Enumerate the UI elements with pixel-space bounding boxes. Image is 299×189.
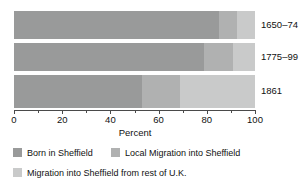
- bar-segment-rest-of-uk-migration: [233, 43, 255, 71]
- x-axis-tick-label: 80: [202, 114, 213, 125]
- x-axis-tick-label: 100: [247, 114, 263, 125]
- x-axis-minor-tick: [38, 110, 39, 113]
- legend-row: Migration into Sheffield from rest of U.…: [13, 165, 299, 180]
- legend: Born in Sheffield Local Migration into S…: [13, 145, 299, 185]
- legend-swatch-icon: [13, 168, 22, 177]
- bar-row: [14, 11, 255, 39]
- legend-item-local-migration: Local Migration into Sheffield: [111, 148, 240, 158]
- bar-segment-rest-of-uk-migration: [237, 11, 255, 39]
- legend-label: Migration into Sheffield from rest of U.…: [27, 168, 186, 178]
- x-axis-minor-tick: [231, 110, 232, 113]
- bar-row: [14, 75, 255, 108]
- x-axis-minor-tick: [135, 110, 136, 113]
- category-label-1650-74: 1650–74: [261, 19, 298, 30]
- legend-item-born-in-sheffield: Born in Sheffield: [13, 148, 93, 158]
- bar-segment-born-in-sheffield: [14, 43, 204, 71]
- bar-segment-local-migration: [204, 43, 233, 71]
- legend-swatch-icon: [13, 148, 22, 157]
- stacked-bar-chart: 020406080100 Percent 1650–74 1775–99 186…: [0, 0, 299, 189]
- category-label-1775-99: 1775–99: [261, 51, 298, 62]
- legend-item-rest-of-uk-migration: Migration into Sheffield from rest of U.…: [13, 168, 186, 178]
- bar-segment-local-migration: [219, 11, 237, 39]
- legend-label: Born in Sheffield: [27, 148, 93, 158]
- bar-segment-local-migration: [142, 75, 181, 108]
- bar-row: [14, 43, 255, 71]
- x-axis-tick-label: 40: [105, 114, 116, 125]
- x-axis-minor-tick: [86, 110, 87, 113]
- category-label-1861: 1861: [261, 85, 282, 96]
- x-axis-tick-label: 60: [153, 114, 164, 125]
- x-axis-tick-label: 0: [11, 114, 16, 125]
- legend-label: Local Migration into Sheffield: [125, 148, 240, 158]
- legend-swatch-icon: [111, 148, 120, 157]
- x-axis-tick-label: 20: [57, 114, 68, 125]
- bar-segment-born-in-sheffield: [14, 75, 142, 108]
- bar-segment-born-in-sheffield: [14, 11, 219, 39]
- plot-area: [14, 10, 255, 110]
- bar-segment-rest-of-uk-migration: [180, 75, 255, 108]
- x-axis-title: Percent: [14, 127, 256, 138]
- legend-row: Born in Sheffield Local Migration into S…: [13, 145, 299, 160]
- x-axis-minor-tick: [183, 110, 184, 113]
